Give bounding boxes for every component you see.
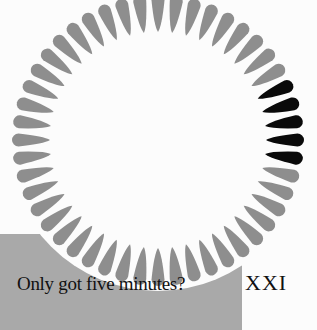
ring-halo: [7, 0, 309, 291]
caption-text: Only got five minutes?: [17, 273, 185, 295]
book-page: Only got five minutes? XXI: [0, 0, 317, 330]
chapter-number: XXI: [245, 270, 287, 296]
